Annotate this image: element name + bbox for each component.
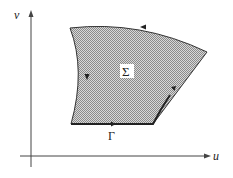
- arrow-top-icon: [140, 25, 146, 30]
- boundary-label: Γ: [108, 129, 115, 143]
- u-axis-arrow-icon: [204, 154, 211, 159]
- u-axis: [20, 154, 211, 159]
- diagram-canvas: v u Σ Γ: [0, 0, 233, 178]
- region-label: Σ: [122, 64, 130, 79]
- v-axis-label: v: [14, 8, 20, 22]
- u-axis-label: u: [213, 149, 219, 163]
- v-axis: [29, 10, 34, 167]
- v-axis-arrow-icon: [29, 10, 34, 17]
- region-sigma: [70, 26, 207, 124]
